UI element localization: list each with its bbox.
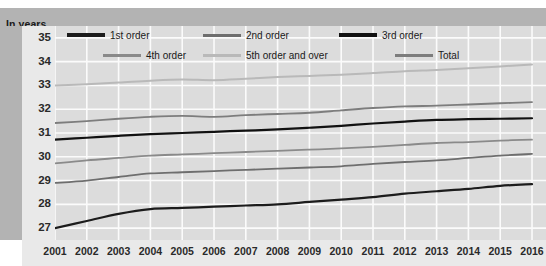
x-tick-label: 2007 xyxy=(230,245,262,257)
y-tick-label: 27 xyxy=(38,221,51,233)
x-tick-label: 2003 xyxy=(103,245,135,257)
series-line xyxy=(55,184,532,228)
legend-swatch-icon xyxy=(67,33,105,37)
unit-header-bar: In years xyxy=(0,8,546,26)
legend-label: 2nd order xyxy=(246,30,289,41)
y-tick-label: 29 xyxy=(38,174,51,186)
left-gutter xyxy=(0,26,22,240)
legend-swatch-icon xyxy=(339,33,377,37)
x-axis-labels: 2001200220032004200520062007200820092010… xyxy=(22,240,546,266)
x-tick-label: 2005 xyxy=(166,245,198,257)
chart-legend: 1st order2nd order3rd order4th order5th … xyxy=(55,28,546,70)
x-tick-label: 2016 xyxy=(516,245,546,257)
legend-label: Total xyxy=(438,50,459,61)
legend-label: 5th order and over xyxy=(246,50,328,61)
x-tick-label: 2014 xyxy=(452,245,484,257)
y-tick-label: 34 xyxy=(38,55,51,67)
x-tick-label: 2008 xyxy=(262,245,294,257)
series-line xyxy=(55,140,532,164)
x-tick-label: 2015 xyxy=(484,245,516,257)
legend-swatch-icon xyxy=(203,34,241,37)
legend-item[interactable]: 3rd order xyxy=(339,28,423,42)
x-tick-label: 2010 xyxy=(325,245,357,257)
x-tick-label: 2001 xyxy=(39,245,71,257)
y-tick-label: 30 xyxy=(38,150,51,162)
x-tick-label: 2004 xyxy=(134,245,166,257)
series-line xyxy=(55,154,532,183)
legend-item[interactable]: 4th order xyxy=(103,48,186,62)
legend-swatch-icon xyxy=(203,54,241,57)
legend-item[interactable]: 2nd order xyxy=(203,28,289,42)
y-tick-label: 32 xyxy=(38,102,51,114)
y-axis-labels: 272829303132333435 xyxy=(22,26,55,240)
chart-figure: In years 272829303132333435 1st order2nd… xyxy=(0,0,546,266)
legend-item[interactable]: 1st order xyxy=(67,28,149,42)
legend-label: 3rd order xyxy=(382,30,423,41)
legend-label: 1st order xyxy=(110,30,149,41)
x-tick-label: 2011 xyxy=(357,245,389,257)
x-tick-label: 2006 xyxy=(198,245,230,257)
x-tick-label: 2012 xyxy=(389,245,421,257)
x-tick-label: 2009 xyxy=(293,245,325,257)
y-tick-label: 28 xyxy=(38,197,51,209)
legend-swatch-icon xyxy=(103,54,141,57)
x-tick-label: 2002 xyxy=(71,245,103,257)
x-tick-label: 2013 xyxy=(421,245,453,257)
y-tick-label: 31 xyxy=(38,126,51,138)
legend-label: 4th order xyxy=(146,50,186,61)
y-tick-label: 35 xyxy=(38,31,51,43)
series-line xyxy=(55,118,532,139)
legend-item[interactable]: Total xyxy=(395,48,459,62)
legend-item[interactable]: 5th order and over xyxy=(203,48,328,62)
y-tick-label: 33 xyxy=(38,78,51,90)
legend-swatch-icon xyxy=(395,54,433,57)
